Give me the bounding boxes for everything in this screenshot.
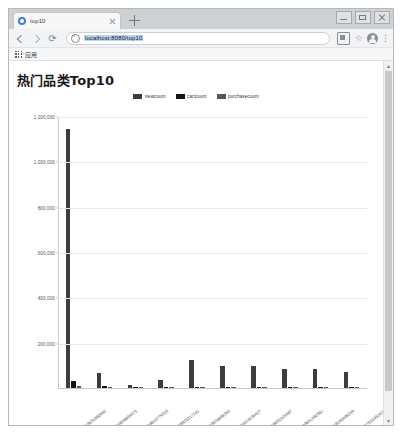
bar-purchasecount[interactable] — [262, 387, 267, 388]
menu-icon[interactable]: ⋮ — [381, 33, 388, 44]
bar-cartcount[interactable] — [71, 381, 76, 388]
tab-strip: top10 — [9, 9, 393, 29]
browser-toolbar: ⟳ localhost:8080/top10 ☆ ⋮ — [9, 29, 393, 48]
bar-viewcount[interactable] — [344, 372, 349, 388]
bar-cartcount[interactable] — [164, 387, 169, 388]
legend-label-purchasecount: purchasecount — [228, 94, 259, 99]
legend-label-cartcount: cartcount — [187, 94, 206, 99]
y-tick-label: 800,000 — [38, 205, 55, 210]
site-info-icon[interactable] — [71, 34, 80, 43]
globe-icon — [18, 17, 26, 25]
bar-purchasecount[interactable] — [200, 387, 205, 388]
bar-viewcount[interactable] — [220, 366, 225, 388]
scrollbar-thumb[interactable] — [385, 71, 392, 391]
y-tick-label: 1,200,000 — [34, 115, 55, 120]
scroll-down-icon[interactable]: ▼ — [384, 416, 393, 425]
x-axis — [58, 388, 367, 389]
chart-legend: viewcountcartcountpurchasecount — [9, 94, 383, 99]
y-tick-label: 1,000,000 — [34, 160, 55, 165]
bar-viewcount[interactable] — [97, 373, 102, 388]
plot-area: 200,000400,000600,000800,0001,000,0001,2… — [58, 117, 367, 389]
extensions-icon[interactable] — [337, 32, 350, 45]
bar-purchasecount[interactable] — [77, 386, 82, 388]
new-tab-button[interactable] — [129, 15, 140, 26]
back-arrow-icon[interactable] — [14, 32, 27, 45]
bar-chart: 200,000400,000600,000800,0001,000,0001,2… — [9, 113, 377, 425]
x-tick-label: 2053013555631882655 — [70, 408, 107, 425]
scroll-up-icon[interactable]: ▲ — [384, 61, 393, 70]
gridline — [58, 162, 367, 163]
bar-cartcount[interactable] — [195, 387, 200, 388]
page-title: 热门品类Top10 — [17, 70, 114, 89]
bar-cartcount[interactable] — [288, 387, 293, 388]
y-tick-mark — [56, 253, 58, 254]
bar-cartcount[interactable] — [102, 386, 107, 388]
y-tick-mark — [56, 207, 58, 208]
x-axis-labels: 2053013555631882655205301355465880407520… — [58, 391, 367, 425]
bookmark-apps-label[interactable]: 应用 — [25, 50, 37, 59]
page-scrollbar[interactable]: ▲ ▼ — [383, 61, 393, 425]
bar-cartcount[interactable] — [349, 387, 354, 388]
bar-purchasecount[interactable] — [355, 387, 360, 388]
legend-item-viewcount[interactable]: viewcount — [133, 94, 165, 99]
y-tick-mark — [56, 162, 58, 163]
legend-swatch-viewcount — [133, 94, 142, 99]
gridline — [58, 298, 367, 299]
bar-purchasecount[interactable] — [108, 387, 113, 388]
gridline — [58, 117, 367, 118]
bar-cartcount[interactable] — [133, 387, 138, 388]
bar-viewcount[interactable] — [282, 369, 287, 388]
legend-item-purchasecount[interactable]: purchasecount — [217, 94, 259, 99]
bar-viewcount[interactable] — [189, 360, 194, 388]
gridline — [58, 344, 367, 345]
browser-window: top10 ⟳ localhost:8080/top10 ☆ ⋮ 应用 — [8, 8, 394, 426]
bar-cartcount[interactable] — [257, 387, 262, 388]
y-tick-mark — [56, 343, 58, 344]
reload-icon[interactable]: ⟳ — [46, 32, 59, 45]
legend-item-cartcount[interactable]: cartcount — [176, 94, 207, 99]
y-tick-label: 200,000 — [38, 341, 55, 346]
address-bar[interactable]: localhost:8080/top10 — [66, 32, 330, 45]
bar-viewcount[interactable] — [158, 380, 163, 388]
url-text[interactable]: localhost:8080/top10 — [84, 35, 143, 41]
tab-title: top10 — [30, 18, 109, 24]
bar-purchasecount[interactable] — [293, 387, 298, 388]
y-tick-mark — [56, 298, 58, 299]
avatar-icon[interactable] — [367, 33, 378, 44]
forward-arrow-icon[interactable] — [30, 32, 43, 45]
page-content: 热门品类Top10 viewcountcartcountpurchasecoun… — [9, 61, 383, 425]
browser-tab-top10[interactable]: top10 — [13, 12, 121, 29]
legend-swatch-cartcount — [176, 94, 185, 99]
bar-purchasecount[interactable] — [139, 387, 144, 388]
y-tick-label: 400,000 — [38, 296, 55, 301]
x-tick-label: 2053013554658804075 — [101, 408, 138, 425]
legend-swatch-purchasecount — [217, 94, 226, 99]
y-tick-label: 600,000 — [38, 251, 55, 256]
legend-label-viewcount: viewcount — [145, 94, 166, 99]
bar-viewcount[interactable] — [66, 129, 71, 388]
gridline — [58, 253, 367, 254]
gridline — [58, 208, 367, 209]
bar-purchasecount[interactable] — [231, 387, 236, 388]
minimize-button[interactable] — [336, 11, 352, 24]
bar-viewcount[interactable] — [251, 366, 256, 388]
apps-grid-icon[interactable] — [15, 51, 22, 58]
maximize-button[interactable] — [355, 11, 371, 24]
bookmark-star-icon[interactable]: ☆ — [353, 33, 364, 44]
bar-cartcount[interactable] — [318, 387, 323, 388]
bar-viewcount[interactable] — [128, 385, 133, 388]
bar-cartcount[interactable] — [226, 387, 231, 388]
window-controls — [336, 11, 390, 24]
tab-close-icon[interactable] — [109, 18, 116, 25]
page-viewport: 热门品类Top10 viewcountcartcountpurchasecoun… — [9, 61, 393, 425]
bookmarks-bar: 应用 — [9, 48, 393, 61]
window-close-button[interactable] — [374, 11, 390, 24]
bar-purchasecount[interactable] — [169, 387, 174, 388]
bar-purchasecount[interactable] — [324, 387, 329, 388]
y-tick-mark — [56, 117, 58, 118]
bar-viewcount[interactable] — [313, 369, 318, 388]
